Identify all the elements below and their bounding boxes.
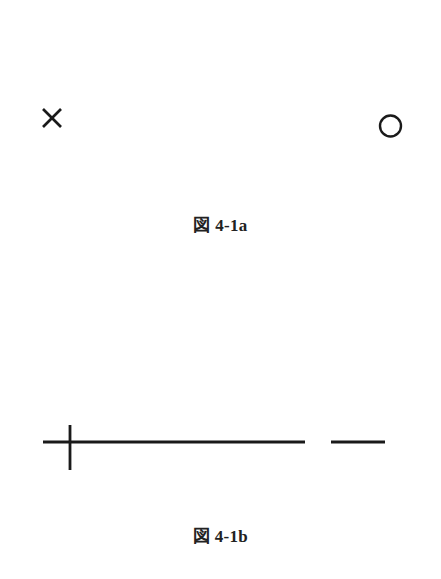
plus-line-icon	[43, 425, 305, 470]
figure-caption-b: 図 4-1b	[0, 522, 441, 547]
figure-4-1a: 図 4-1a	[0, 0, 441, 260]
figure-4-1b: 図 4-1b	[0, 260, 441, 579]
circle-icon	[380, 116, 401, 137]
figure-caption-a: 図 4-1a	[0, 211, 441, 236]
cross-icon	[43, 109, 61, 127]
